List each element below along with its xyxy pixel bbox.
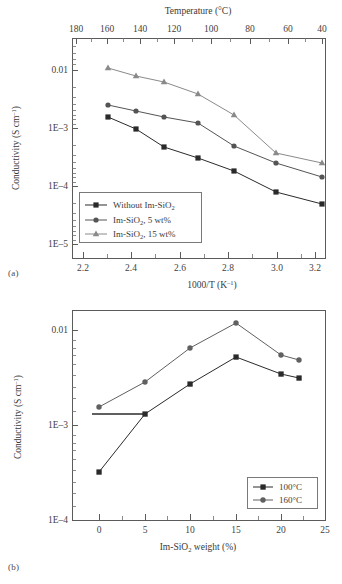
chart-a-legend[interactable]: Without Im-SiO2 Im-SiO2, 5 wt% Im-SiO2, … xyxy=(79,192,201,242)
chart-a-bottom-ticks xyxy=(83,252,315,258)
chart-a-top-tick-labels: 180 160 140 120 100 80 60 40 xyxy=(69,24,327,34)
svg-text:Without Im-SiO2: Without Im-SiO2 xyxy=(113,200,175,211)
chart-panel-b: 0 5 10 15 20 25 Im-SiO2 weight (%) xyxy=(0,292,342,584)
svg-text:1E–5: 1E–5 xyxy=(48,239,68,249)
chart-a-top-ticks xyxy=(76,38,322,44)
svg-text:140: 140 xyxy=(133,24,148,34)
panel-b-label: (b) xyxy=(8,562,19,572)
svg-text:1E–3: 1E–3 xyxy=(48,123,68,133)
chart-b-y-tick-labels: 0.01 1E–3 1E–4 xyxy=(48,325,68,525)
chart-b-x-axis-title: Im-SiO2 weight (%) xyxy=(160,542,237,553)
svg-text:2.4: 2.4 xyxy=(125,263,137,273)
chart-a-svg: Temperature (°C) 180 160 140 120 100 80 … xyxy=(0,0,342,292)
chart-a-series-im-sio2-15wt xyxy=(105,65,326,166)
chart-b-series-160c xyxy=(96,320,301,409)
chart-panel-a: Temperature (°C) 180 160 140 120 100 80 … xyxy=(0,0,342,292)
svg-text:25: 25 xyxy=(320,525,330,535)
svg-text:0: 0 xyxy=(97,525,102,535)
svg-text:20: 20 xyxy=(276,525,286,535)
svg-text:3.0: 3.0 xyxy=(271,263,283,273)
figure-container: Temperature (°C) 180 160 140 120 100 80 … xyxy=(0,0,342,584)
svg-text:5: 5 xyxy=(143,525,148,535)
svg-text:180: 180 xyxy=(69,24,84,34)
chart-a-y-tick-labels: 0.01 1E–3 1E–4 1E–5 xyxy=(48,65,68,249)
chart-a-y-axis-title: Conductivity (S cm–1) xyxy=(10,106,22,190)
chart-b-y-ticks xyxy=(72,330,78,520)
svg-text:100°C: 100°C xyxy=(279,482,302,492)
svg-text:160: 160 xyxy=(100,24,115,34)
chart-a-y-ticks xyxy=(72,46,78,244)
svg-text:2.8: 2.8 xyxy=(222,263,234,273)
svg-text:0.01: 0.01 xyxy=(51,325,68,335)
svg-text:1E–3: 1E–3 xyxy=(48,420,68,430)
svg-text:15: 15 xyxy=(231,525,241,535)
svg-text:80: 80 xyxy=(245,24,255,34)
svg-text:0.01: 0.01 xyxy=(51,65,68,75)
chart-b-svg: 0 5 10 15 20 25 Im-SiO2 weight (%) xyxy=(0,292,342,584)
chart-b-x-ticks xyxy=(99,514,325,520)
svg-text:1E–4: 1E–4 xyxy=(48,181,68,191)
chart-b-x-tick-labels: 0 5 10 15 20 25 xyxy=(97,525,330,535)
svg-text:120: 120 xyxy=(167,24,182,34)
chart-a-x-axis-title: 1000/T (K–1) xyxy=(187,279,236,291)
chart-a-series-im-sio2-5wt xyxy=(105,102,324,179)
svg-text:60: 60 xyxy=(283,24,293,34)
svg-text:1E–4: 1E–4 xyxy=(48,515,68,525)
svg-text:Im-SiO2, 15 wt%: Im-SiO2, 15 wt% xyxy=(113,229,176,240)
chart-a-top-axis-title: Temperature (°C) xyxy=(165,6,232,17)
chart-b-y-axis-title: Conductivity (S cm–1) xyxy=(12,375,24,459)
chart-b-series-100c xyxy=(92,354,302,474)
panel-a-label: (a) xyxy=(8,268,19,278)
chart-b-legend[interactable]: 100°C 160°C xyxy=(247,477,317,508)
svg-text:160°C: 160°C xyxy=(279,495,302,505)
svg-text:2.2: 2.2 xyxy=(77,263,89,273)
chart-a-x-tick-labels: 2.2 2.4 2.6 2.8 3.0 3.2 xyxy=(77,263,321,273)
svg-text:40: 40 xyxy=(317,24,327,34)
svg-text:3.2: 3.2 xyxy=(309,263,321,273)
svg-text:2.6: 2.6 xyxy=(174,263,186,273)
svg-text:10: 10 xyxy=(185,525,195,535)
svg-text:100: 100 xyxy=(204,24,219,34)
